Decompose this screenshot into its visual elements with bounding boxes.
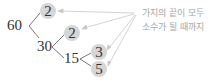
prime-factor-circle: 3 (91, 44, 107, 60)
composite-number: 15 (64, 51, 79, 66)
factor-tree-diagram: 60 2 30 2 15 3 5 가지의 끝이 모두 소수가 될 때까지 (0, 0, 209, 80)
prime-factor-circle: 2 (64, 25, 80, 41)
annotation-line-1: 가지의 끝이 모두 (142, 6, 204, 20)
composite-number: 30 (37, 39, 52, 54)
prime-factor-circle: 5 (91, 61, 107, 77)
prime-factor-circle: 2 (40, 3, 56, 19)
annotation-line-2: 소수가 될 때까지 (142, 20, 204, 34)
root-number: 60 (7, 18, 22, 33)
